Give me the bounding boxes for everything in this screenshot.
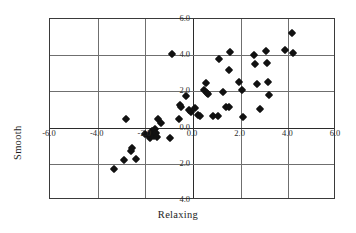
data-point [132, 155, 140, 163]
data-point [157, 119, 165, 127]
y-tick-label: 4.0 [170, 195, 190, 204]
gridline-vertical [145, 19, 146, 198]
data-point [166, 134, 174, 142]
gridline-horizontal [50, 91, 334, 92]
plot-area [49, 18, 335, 199]
gridline-vertical [288, 19, 289, 198]
x-tick-label: 4.0 [282, 129, 293, 138]
y-tick-label: 4.0 [170, 50, 190, 59]
data-point [225, 65, 233, 73]
y-tick-label: 0.0 [170, 122, 190, 131]
y-tick-label: 2.0 [170, 86, 190, 95]
x-tick-label: 2.0 [234, 129, 245, 138]
data-point [253, 80, 261, 88]
y-tick-label: 2.0 [170, 159, 190, 168]
x-axis-title: Relaxing [0, 209, 356, 220]
x-tick-label: 6.0 [330, 129, 341, 138]
scatter-plot-figure: -6.0-4.0-2.00.02.04.06.04.02.00.02.04.06… [0, 0, 356, 233]
data-point [263, 59, 271, 67]
data-point [250, 51, 258, 59]
data-point [255, 104, 263, 112]
gridline-vertical [241, 19, 242, 198]
data-point [289, 49, 297, 57]
y-axis-title: Smooth [12, 40, 26, 160]
data-point [122, 115, 130, 123]
data-point [261, 46, 269, 54]
y-tick-label: 6.0 [170, 14, 190, 23]
x-tick-label: -6.0 [42, 129, 55, 138]
gridline-vertical [98, 19, 99, 198]
data-point [251, 60, 259, 68]
x-tick-label: -2.0 [138, 129, 151, 138]
data-point [238, 85, 246, 93]
data-point [214, 112, 222, 120]
data-point [110, 165, 118, 173]
x-tick-label: -4.0 [90, 129, 103, 138]
data-point [219, 88, 227, 96]
gridline-horizontal [50, 164, 334, 165]
data-point [264, 78, 272, 86]
